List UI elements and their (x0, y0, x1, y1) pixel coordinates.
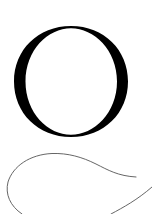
logo-artwork: O (0, 0, 152, 214)
letter-o-mark (0, 0, 152, 214)
swash-curve-icon (7, 153, 136, 214)
swash-tail-icon (111, 187, 152, 214)
letter-o-glyph (14, 26, 128, 137)
